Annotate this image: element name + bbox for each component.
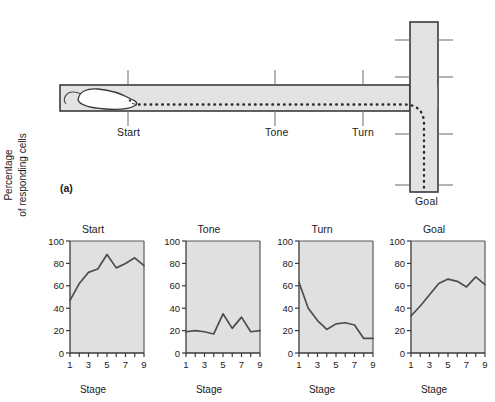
maze-marker-label-goal: Goal: [415, 195, 438, 207]
y-tick-label: 0: [288, 348, 293, 359]
chart-x-axis-label: Stage: [36, 384, 150, 395]
maze-marker-label-turn: Turn: [352, 126, 374, 138]
x-tick-label: 3: [427, 359, 432, 370]
y-tick-label: 60: [282, 280, 293, 291]
y-tick-label: 20: [169, 325, 180, 336]
x-tick-label: 1: [183, 359, 188, 370]
chart-x-axis-label: Stage: [377, 384, 491, 395]
y-tick-label: 20: [53, 325, 64, 336]
chart-start: Start 02040608010013579 Stage: [36, 223, 150, 395]
y-tick-label: 80: [282, 258, 293, 269]
y-tick-label: 100: [164, 237, 180, 247]
x-tick-label: 7: [123, 359, 128, 370]
y-tick-label: 40: [169, 303, 180, 314]
y-tick-label: 80: [169, 258, 180, 269]
plot-background: [70, 241, 144, 353]
y-tick-label: 40: [53, 303, 64, 314]
y-axis-label-line2: of responding cells: [17, 110, 28, 240]
y-tick-label: 40: [282, 303, 293, 314]
chart-x-axis-label: Stage: [265, 384, 379, 395]
x-tick-label: 1: [67, 359, 72, 370]
x-tick-label: 1: [408, 359, 413, 370]
chart-title: Turn: [265, 223, 379, 235]
rat-eye-icon: [129, 99, 131, 101]
y-tick-label: 100: [48, 237, 64, 247]
x-tick-label: 5: [104, 359, 109, 370]
x-tick-label: 1: [296, 359, 301, 370]
rat-trajectory-path: [139, 105, 424, 189]
y-tick-label: 80: [53, 258, 64, 269]
y-axis-label-line1: Percentage: [3, 110, 14, 240]
panel-a-maze: Start Tone Turn Goal (a): [0, 0, 495, 215]
maze-marker-label-start: Start: [117, 126, 140, 138]
y-tick-label: 100: [277, 237, 293, 247]
x-tick-label: 3: [202, 359, 207, 370]
y-tick-label: 20: [394, 325, 405, 336]
plot-background: [186, 241, 260, 353]
y-tick-label: 60: [394, 280, 405, 291]
x-tick-label: 7: [239, 359, 244, 370]
x-tick-label: 9: [257, 359, 262, 370]
x-tick-label: 5: [333, 359, 338, 370]
y-tick-label: 60: [53, 280, 64, 291]
chart-tone: Tone 02040608010013579 Stage: [152, 223, 266, 395]
x-tick-label: 5: [220, 359, 225, 370]
y-tick-label: 80: [394, 258, 405, 269]
panel-b-charts: Percentage of responding cells Start 020…: [0, 215, 495, 402]
x-tick-label: 9: [141, 359, 146, 370]
y-axis-label: Percentage of responding cells: [0, 229, 40, 359]
x-tick-label: 5: [445, 359, 450, 370]
chart-turn: Turn 02040608010013579 Stage: [265, 223, 379, 395]
y-tick-label: 0: [175, 348, 180, 359]
x-tick-label: 9: [482, 359, 487, 370]
chart-svg: 02040608010013579: [152, 237, 266, 387]
chart-x-axis-label: Stage: [152, 384, 266, 395]
panel-a-letter: (a): [60, 182, 73, 194]
x-tick-label: 7: [352, 359, 357, 370]
plot-background: [411, 241, 485, 353]
chart-title: Goal: [377, 223, 491, 235]
maze-junction-fill: [411, 86, 437, 110]
maze-drawing: [0, 0, 495, 215]
chart-svg: 02040608010013579: [265, 237, 379, 387]
chart-svg: 02040608010013579: [36, 237, 150, 387]
chart-goal: Goal 02040608010013579 Stage: [377, 223, 491, 395]
x-tick-label: 7: [464, 359, 469, 370]
chart-title: Tone: [152, 223, 266, 235]
y-tick-label: 100: [389, 237, 405, 247]
y-tick-label: 60: [169, 280, 180, 291]
x-tick-label: 9: [370, 359, 375, 370]
y-tick-label: 20: [282, 325, 293, 336]
y-tick-label: 0: [59, 348, 64, 359]
maze-marker-label-tone: Tone: [265, 126, 289, 138]
x-tick-label: 3: [86, 359, 91, 370]
chart-svg: 02040608010013579: [377, 237, 491, 387]
figure-root: Start Tone Turn Goal (a) Percentage of r…: [0, 0, 495, 402]
y-tick-label: 40: [394, 303, 405, 314]
y-tick-label: 0: [400, 348, 405, 359]
x-tick-label: 3: [315, 359, 320, 370]
chart-title: Start: [36, 223, 150, 235]
